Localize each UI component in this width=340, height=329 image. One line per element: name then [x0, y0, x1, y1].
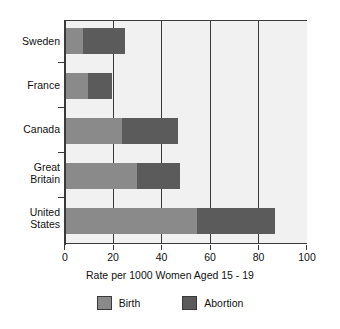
y-axis-label-great-britain: Great Britain: [0, 162, 60, 185]
y-axis-label-sweden: Sweden: [0, 36, 60, 48]
y-axis-label-canada: Canada: [0, 124, 60, 136]
x-axis-title: Rate per 1000 Women Aged 15 - 19: [0, 269, 340, 281]
bar-segment-abortion: [88, 73, 112, 99]
y-axis-label-line: States: [0, 219, 60, 231]
legend-item-birth: Birth: [97, 296, 141, 310]
bar-segment-abortion: [197, 208, 275, 234]
x-axis-tick-label-20: 20: [107, 251, 119, 263]
x-axis-tick-80: [258, 245, 259, 250]
plot-area: [64, 20, 307, 244]
bar-segment-birth: [64, 163, 137, 189]
y-axis-label-line: United: [0, 207, 60, 219]
x-axis-tick-label-40: 40: [156, 251, 168, 263]
y-axis-label-united-states: United States: [0, 207, 60, 230]
bar-segment-birth: [64, 208, 197, 234]
legend-label-abortion: Abortion: [204, 297, 243, 309]
bar-segment-birth: [64, 118, 122, 144]
y-axis-label-line: Sweden: [22, 35, 60, 47]
legend-label-birth: Birth: [119, 297, 141, 309]
bar-segment-abortion: [122, 118, 178, 144]
bar-segment-birth: [64, 73, 88, 99]
x-axis-tick-label-60: 60: [204, 251, 216, 263]
x-axis-tick-0: [64, 245, 65, 250]
y-axis-label-line: Britain: [0, 174, 60, 186]
bar-segment-birth: [64, 28, 83, 54]
bar-chart: Sweden France Canada Great Britain Unite…: [0, 0, 340, 329]
y-axis-label-line: Great: [0, 162, 60, 174]
bar-segment-abortion: [83, 28, 124, 54]
x-axis-tick-label-0: 0: [62, 251, 68, 263]
legend-swatch-birth: [97, 296, 112, 310]
bar-segment-abortion: [137, 163, 181, 189]
legend-item-abortion: Abortion: [182, 296, 243, 310]
x-axis-tick-40: [161, 245, 162, 250]
legend-swatch-abortion: [182, 296, 197, 310]
x-axis-tick-label-100: 100: [298, 251, 316, 263]
x-axis-tick-60: [210, 245, 211, 250]
y-axis-label-line: France: [27, 79, 60, 91]
y-axis-label-france: France: [0, 80, 60, 92]
x-axis-tick-100: [306, 245, 307, 250]
y-axis-labels: Sweden France Canada Great Britain Unite…: [0, 20, 60, 244]
y-axis-label-line: Canada: [23, 123, 60, 135]
x-axis-tick-label-80: 80: [253, 251, 265, 263]
x-axis-tick-20: [113, 245, 114, 250]
y-axis-line: [64, 20, 66, 245]
chart-legend: Birth Abortion: [0, 296, 340, 310]
